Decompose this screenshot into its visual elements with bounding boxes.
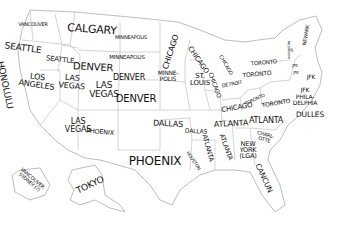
state-label-ny2: JFK: [292, 64, 298, 68]
state-label-de: JFK: [301, 87, 310, 93]
state-label-pa: PHILA- DELPHIA: [293, 94, 317, 105]
state-label-co: DENVER: [116, 94, 156, 104]
state-label-ga: NEW YORK (LGA): [239, 141, 256, 160]
state-label-tn: ATLANTA: [214, 119, 249, 128]
state-label-ct: JFK: [293, 71, 299, 75]
state-label-nd: MINNEAPOLIS: [115, 35, 147, 40]
state-label-ok: DALLAS: [153, 119, 183, 128]
state-label-sd: MINNEAPOLIS: [109, 55, 144, 60]
state-label-tx: PHOENIX: [129, 156, 182, 167]
state-label-wy: DENVER: [73, 61, 114, 73]
state-label-va: ATLANTA: [249, 117, 283, 125]
state-label-nm: PHOENIX: [86, 128, 114, 137]
state-label-vt: BURLINGTON JFK: [288, 41, 294, 59]
state-label-mo: ST. LOUIS: [190, 73, 210, 86]
state-borders: [22, 10, 300, 170]
state-label-ia: MINNE- POLIS: [158, 70, 179, 81]
state-label-wa-top: VANCOUVER: [18, 22, 48, 27]
us-map-outline: [0, 0, 339, 225]
state-label-ar: DALLAS: [185, 128, 207, 135]
state-label-nj: JFK: [307, 74, 316, 80]
state-label-nv: LAS VEGAS: [58, 73, 86, 90]
state-label-md: DULLES: [296, 111, 324, 118]
state-label-ut: LAS VEGAS: [89, 81, 119, 98]
